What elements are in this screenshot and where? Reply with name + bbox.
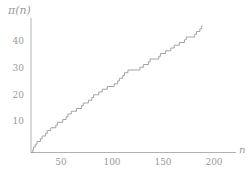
x-tick-label-100: 100 — [100, 158, 124, 167]
y-tick-label-20: 20 — [6, 91, 24, 100]
plot-area — [0, 0, 251, 172]
axes-group — [31, 18, 236, 153]
x-tick-label-150: 150 — [151, 158, 175, 167]
y-tick-label-40: 40 — [6, 37, 24, 46]
x-tick-label-200: 200 — [202, 158, 226, 167]
x-axis-label: n — [239, 145, 245, 155]
x-tick-label-50: 50 — [49, 158, 73, 167]
step-curve — [31, 26, 203, 153]
chart-figure: π(n) n 40 30 20 10 50 100 150 200 — [0, 0, 251, 172]
y-axis-label: π(n) — [8, 5, 31, 16]
y-tick-label-10: 10 — [6, 117, 24, 126]
y-tick-label-30: 30 — [6, 64, 24, 73]
data-series-pi-n — [31, 26, 203, 153]
